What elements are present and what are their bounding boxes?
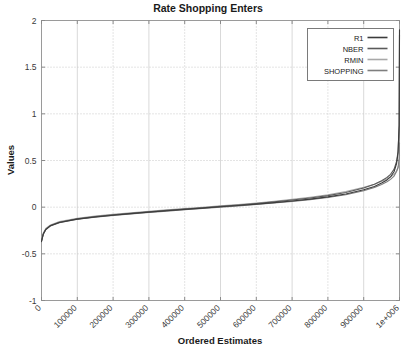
chart-container: Rate Shopping Enters -1-0.500.511.52 010… <box>0 0 416 352</box>
chart-legend[interactable]: R1NBERRMINSHOPPING <box>308 29 394 81</box>
x-tick-label: 500000 <box>195 303 222 330</box>
x-tick-label: 400000 <box>159 303 186 330</box>
x-tick-label: 200000 <box>87 303 114 330</box>
x-tick-label: 300000 <box>123 303 150 330</box>
y-tick-label: -0.5 <box>22 249 37 259</box>
x-tick-label: 600000 <box>231 303 258 330</box>
x-tick-label: 1e+006 <box>374 303 401 330</box>
legend-label-rmin[interactable]: RMIN <box>344 56 363 65</box>
legend-label-shopping[interactable]: SHOPPING <box>324 67 364 76</box>
y-tick-label: 0 <box>32 202 37 212</box>
y-tick-label: 2 <box>32 16 37 26</box>
x-axis-label: Ordered Estimates <box>178 335 262 346</box>
legend-label-nber[interactable]: NBER <box>343 45 364 54</box>
x-tick-label: 800000 <box>302 303 329 330</box>
x-tick-labels: 0100000200000300000400000500000600000700… <box>32 303 401 330</box>
x-tick-label: 700000 <box>266 303 293 330</box>
y-tick-labels: -1-0.500.511.52 <box>22 16 37 306</box>
legend-label-r1[interactable]: R1 <box>354 34 364 43</box>
y-axis-label: Values <box>5 145 16 175</box>
y-tick-label: 1 <box>32 109 37 119</box>
y-tick-label: 1.5 <box>25 62 37 72</box>
x-tick-label: 900000 <box>338 303 365 330</box>
x-tick-label: 0 <box>32 303 43 314</box>
chart-title: Rate Shopping Enters <box>153 2 263 14</box>
rate-shopping-enters-chart: Rate Shopping Enters -1-0.500.511.52 010… <box>0 0 416 352</box>
x-tick-label: 100000 <box>52 303 79 330</box>
y-tick-label: 0.5 <box>25 156 37 166</box>
